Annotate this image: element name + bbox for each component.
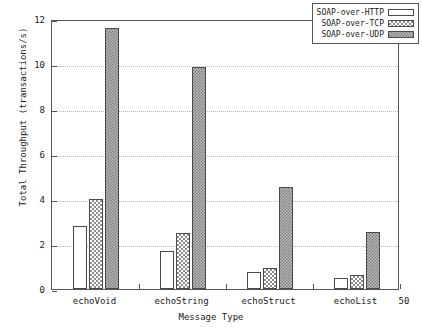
legend-item: SOAP-over-HTTP	[317, 7, 414, 18]
chart-figure: Total Throughput (transactions/s) 024681…	[0, 0, 422, 332]
bar	[366, 232, 380, 289]
bar	[160, 251, 174, 289]
legend-label: SOAP-over-UDP	[321, 31, 384, 39]
y-axis-tick-label: 10	[17, 61, 45, 70]
y-axis-tick	[52, 21, 57, 22]
bar	[279, 187, 293, 289]
x-axis-tick-label: echoString	[138, 296, 226, 306]
plot-area	[51, 20, 399, 290]
x-axis-tick	[139, 284, 140, 289]
legend-label: SOAP-over-HTTP	[317, 9, 384, 17]
legend-label: SOAP-over-TCP	[321, 20, 384, 28]
x-axis-tick	[400, 284, 401, 289]
bar	[247, 272, 261, 289]
y-axis-tick-label: 0	[17, 286, 45, 295]
y-axis-tick	[52, 291, 57, 292]
y-axis-tick-label: 12	[17, 16, 45, 25]
bar	[334, 278, 348, 289]
legend-swatch	[388, 9, 414, 16]
bar	[350, 275, 364, 289]
legend-swatch	[388, 20, 414, 27]
y-axis-tick	[52, 201, 57, 202]
y-axis-tick-label: 4	[17, 196, 45, 205]
y-axis-tick	[52, 66, 57, 67]
y-axis-tick-label: 8	[17, 106, 45, 115]
x-axis-tick-label: echoList	[312, 296, 400, 306]
bar	[176, 233, 190, 289]
x-axis-tick-label: echoStruct	[225, 296, 313, 306]
legend-item: SOAP-over-TCP	[317, 18, 414, 29]
y-axis-tick-label: 6	[17, 151, 45, 160]
bar	[105, 28, 119, 289]
x-axis-tick	[226, 284, 227, 289]
corner-label: 50	[392, 296, 416, 306]
y-axis-tick	[52, 156, 57, 157]
y-axis-tick	[52, 246, 57, 247]
bar	[192, 67, 206, 289]
y-axis-tick	[52, 111, 57, 112]
legend-item: SOAP-over-UDP	[317, 29, 414, 40]
x-axis-tick	[313, 284, 314, 289]
legend: SOAP-over-HTTPSOAP-over-TCPSOAP-over-UDP	[312, 3, 419, 44]
y-axis-tick-label: 2	[17, 241, 45, 250]
x-axis-tick-label: echoVoid	[51, 296, 139, 306]
bar	[89, 199, 103, 289]
x-axis-title: Message Type	[0, 312, 422, 322]
legend-swatch	[388, 31, 414, 38]
bar	[263, 268, 277, 289]
bar	[73, 226, 87, 289]
